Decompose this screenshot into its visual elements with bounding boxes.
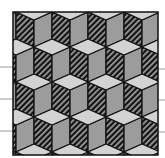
- cube-right-face: [16, 0, 34, 12]
- cube-left-face: [160, 12, 165, 47]
- cube-left-face: [106, 0, 124, 12]
- cube-left-face: [142, 0, 160, 12]
- cube-left-face: [34, 0, 52, 12]
- cube-right-face: [52, 0, 70, 12]
- cube-right-face: [160, 47, 165, 82]
- cube-right-face: [88, 0, 106, 12]
- cube-right-face: [160, 117, 165, 152]
- cube-tessellation: [0, 0, 165, 158]
- cube-top-face: [160, 74, 165, 90]
- cube-left-face: [70, 0, 88, 12]
- tumbling-blocks-figure: [0, 0, 165, 158]
- cube-left-face: [160, 152, 165, 158]
- cube-right-face: [160, 0, 165, 12]
- cube-right-face: [124, 0, 142, 12]
- cube-left-face: [0, 0, 16, 12]
- cube-top-face: [160, 4, 165, 20]
- cube-top-face: [160, 144, 165, 158]
